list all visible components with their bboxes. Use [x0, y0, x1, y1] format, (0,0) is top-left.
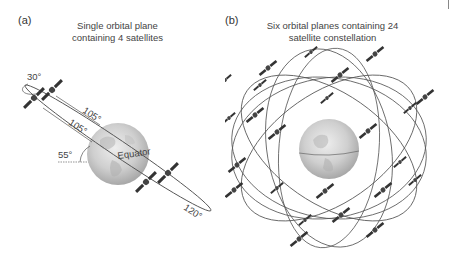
satellite-icon: [365, 45, 385, 63]
inclination-angle-label: 55°: [58, 149, 73, 160]
panel-b-diagram: [225, 0, 451, 257]
satellite-icon: [298, 213, 313, 226]
satellite-icon: [225, 73, 232, 86]
satellite-icon: [320, 91, 335, 104]
satellite-icon: [415, 88, 435, 106]
earth-icon: [299, 119, 359, 179]
satellite-icon: [315, 182, 335, 200]
panel-a-single-orbit: (a) Single orbital plane containing 4 sa…: [0, 0, 225, 257]
satellite-icon: [270, 181, 285, 194]
satellite-icon: [365, 221, 385, 239]
satellite-icon: [227, 156, 247, 174]
separation-angle-105-b: 105°: [67, 116, 90, 136]
satellite-icon: [267, 123, 287, 141]
separation-angle-30: 30°: [27, 71, 42, 82]
separation-angle-120: 120°: [182, 201, 205, 221]
satellite-icon: [304, 45, 319, 58]
satellite-icon: [156, 161, 180, 185]
panel-a-diagram: 55° Equator 30° 105° 105° 120°: [0, 0, 225, 257]
satellite-icon: [289, 230, 309, 248]
satellite-icon: [358, 122, 378, 140]
panel-b-constellation: (b) Six orbital planes containing 24 sat…: [225, 0, 451, 257]
satellite-icon: [258, 59, 278, 77]
